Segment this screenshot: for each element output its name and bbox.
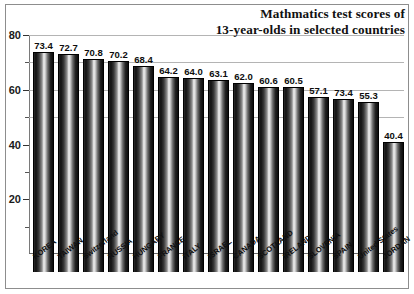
plot-area: 20406080 73.472.770.870.268.464.264.063.… xyxy=(29,35,404,254)
bar-slot: 40.4 xyxy=(380,35,405,254)
bar-slot: 73.4 xyxy=(330,35,355,254)
y-axis-label-40: 40 xyxy=(9,139,21,151)
y-tick-major-60 xyxy=(23,90,29,91)
bar-value-label: 60.5 xyxy=(284,75,303,86)
bar-value-label: 73.4 xyxy=(34,40,53,51)
bar-slot: 70.8 xyxy=(80,35,105,254)
bar-slot: 70.2 xyxy=(105,35,130,254)
bar-slot: 73.4 xyxy=(30,35,55,254)
bar-slot: 60.6 xyxy=(255,35,280,254)
bar-slot: 64.0 xyxy=(180,35,205,254)
y-tick-minor-30 xyxy=(25,172,29,173)
bar-slot: 55.3 xyxy=(355,35,380,254)
y-axis-label-80: 80 xyxy=(9,29,21,41)
bar-value-label: 72.7 xyxy=(59,42,78,53)
y-axis-label-20: 20 xyxy=(9,193,21,205)
bars-group: 73.472.770.870.268.464.264.063.162.060.6… xyxy=(30,35,404,254)
y-tick-minor-70 xyxy=(25,62,29,63)
bar-value-label: 70.8 xyxy=(84,47,103,58)
bar-value-label: 73.4 xyxy=(334,87,353,98)
bar-value-label: 70.2 xyxy=(109,49,128,60)
bar-slot: 60.5 xyxy=(280,35,305,254)
bar-value-label: 64.2 xyxy=(159,65,178,76)
y-axis-label-60: 60 xyxy=(9,84,21,96)
bar-slot: 72.7 xyxy=(55,35,80,254)
y-tick-major-20 xyxy=(23,199,29,200)
bar-value-label: 40.4 xyxy=(384,130,403,141)
bar-value-label: 64.0 xyxy=(184,66,203,77)
bar-slot: 64.2 xyxy=(155,35,180,254)
bar-value-label: 57.1 xyxy=(309,85,328,96)
bar-value-label: 62.0 xyxy=(234,71,253,82)
y-tick-minor-10 xyxy=(25,227,29,228)
bar-value-label: 68.4 xyxy=(134,54,153,65)
bar-slot: 57.1 xyxy=(305,35,330,254)
bar-value-label: 55.3 xyxy=(359,90,378,101)
bar-value-label: 63.1 xyxy=(209,68,228,79)
chart-figure: Mathmatics test scores of 13-year-olds i… xyxy=(0,0,414,294)
bar-slot: 62.0 xyxy=(230,35,255,254)
bar-slot: 68.4 xyxy=(130,35,155,254)
bar-slot: 63.1 xyxy=(205,35,230,254)
bar-value-label: 60.6 xyxy=(259,75,278,86)
x-axis-labels-group: KOREATAIWANSwitzerlandRUSSIAHUNGARYFRANC… xyxy=(30,254,405,290)
y-tick-major-80 xyxy=(23,35,29,36)
y-tick-minor-50 xyxy=(25,117,29,118)
y-tick-major-40 xyxy=(23,145,29,146)
